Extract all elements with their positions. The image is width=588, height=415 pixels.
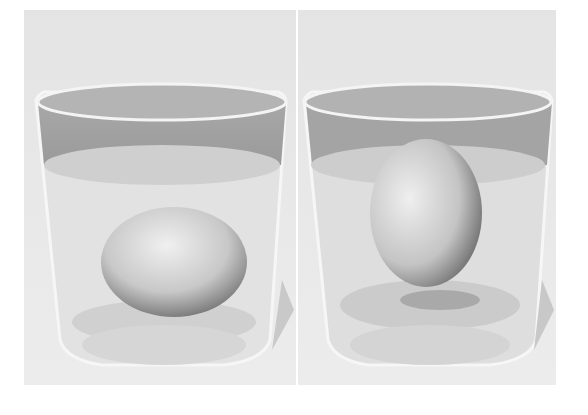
egg bbox=[101, 207, 247, 317]
egg bbox=[370, 139, 482, 287]
glass-with-floating-egg bbox=[298, 10, 556, 385]
glass-with-sunk-egg bbox=[24, 10, 296, 385]
right-glass-panel bbox=[298, 10, 556, 385]
left-glass-panel bbox=[24, 10, 296, 385]
